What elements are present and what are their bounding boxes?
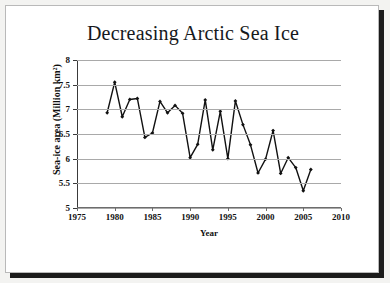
y-axis-tick <box>73 159 77 160</box>
y-gridline <box>77 159 341 160</box>
data-point-marker <box>234 99 238 103</box>
data-point-marker <box>211 148 215 152</box>
x-axis-tick <box>190 208 191 211</box>
y-axis-title: Sea-ice area (Million km²) <box>51 40 62 200</box>
y-gridline <box>77 208 341 209</box>
y-axis-tick <box>73 134 77 135</box>
y-gridline <box>77 109 341 110</box>
x-axis-tick <box>228 208 229 211</box>
x-axis-tick-label: 2005 <box>294 212 312 222</box>
x-axis-tick <box>152 208 153 211</box>
chart-sheet: Decreasing Arctic Sea Ice Sea-ice area (… <box>5 5 379 273</box>
y-axis-tick-label: 6.5 <box>59 129 70 139</box>
y-axis-tick-label: 7 <box>66 104 71 114</box>
x-axis-tick-label: 2000 <box>257 212 275 222</box>
y-gridline <box>77 60 341 61</box>
data-point-marker <box>249 143 253 147</box>
plot-area: 55.566.577.58197519801985199019952000200… <box>77 60 341 208</box>
y-axis-tick <box>73 60 77 61</box>
data-point-marker <box>241 123 245 127</box>
y-axis-title-holder: Sea-ice area (Million km²) <box>42 62 58 212</box>
x-axis-tick-label: 1985 <box>143 212 161 222</box>
y-gridline <box>77 134 341 135</box>
y-gridline <box>77 85 341 86</box>
y-gridline <box>77 183 341 184</box>
data-point-marker <box>203 98 207 102</box>
x-axis-tick-label: 1980 <box>106 212 124 222</box>
x-axis-tick <box>341 208 342 211</box>
x-axis-tick-label: 2010 <box>332 212 350 222</box>
x-axis-tick <box>77 208 78 211</box>
data-point-marker <box>113 80 117 84</box>
x-axis-tick <box>303 208 304 211</box>
y-axis-tick-label: 5.5 <box>59 178 70 188</box>
x-axis-title: Year <box>77 228 341 238</box>
data-point-marker <box>271 129 275 133</box>
data-point-marker <box>309 168 313 172</box>
x-axis-tick-label: 1975 <box>68 212 86 222</box>
x-axis-tick <box>115 208 116 211</box>
plot-wrapper: Sea-ice area (Million km²) 55.566.577.58… <box>6 6 379 273</box>
x-axis-tick-label: 1990 <box>181 212 199 222</box>
y-axis-tick-label: 7.5 <box>59 80 70 90</box>
data-point-marker <box>135 97 139 101</box>
y-axis-tick <box>73 183 77 184</box>
y-axis-tick <box>73 109 77 110</box>
y-axis-tick-label: 8 <box>66 55 71 65</box>
x-axis-tick <box>266 208 267 211</box>
screenshot-page: Decreasing Arctic Sea Ice Sea-ice area (… <box>0 0 390 283</box>
x-axis-tick-label: 1995 <box>219 212 237 222</box>
y-axis-tick <box>73 85 77 86</box>
data-point-marker <box>301 189 305 193</box>
y-axis-tick-label: 6 <box>66 154 71 164</box>
data-point-marker <box>105 111 109 115</box>
